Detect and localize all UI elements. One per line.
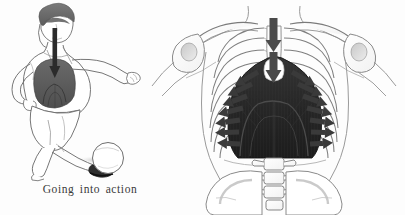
- legs-group: [31, 144, 96, 181]
- figure-page: Going into action: [0, 0, 405, 215]
- anatomy-panel: [140, 0, 405, 215]
- football: [93, 143, 124, 174]
- thorax-diaphragm-illustration: [140, 0, 405, 215]
- shorts-group: [30, 106, 80, 151]
